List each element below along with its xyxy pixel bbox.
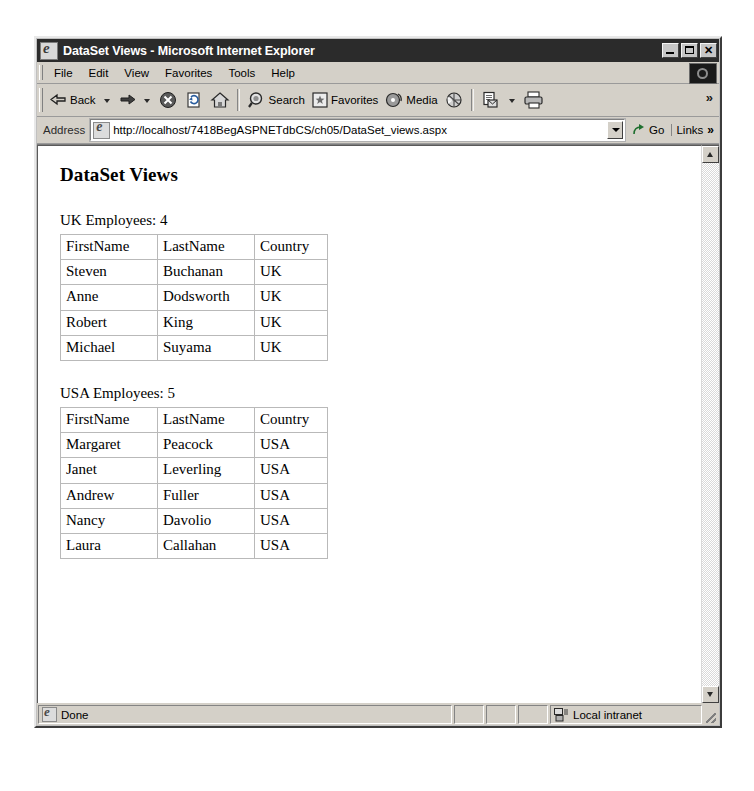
mail-button[interactable] (478, 87, 504, 113)
cell-lastname: Peacock (158, 433, 255, 458)
page-icon (93, 122, 110, 139)
table-row: Andrew Fuller USA (61, 483, 328, 508)
media-label: Media (406, 94, 437, 106)
status-message-panel: Done (38, 705, 452, 724)
history-button[interactable] (441, 87, 467, 113)
minimize-button[interactable] (662, 43, 679, 58)
forward-arrow-icon (118, 92, 136, 108)
column-header-firstname: FirstName (61, 407, 158, 432)
back-label: Back (70, 94, 96, 106)
toolbar-drag-grip[interactable] (39, 88, 43, 112)
forward-button[interactable] (115, 87, 139, 113)
menu-bar: File Edit View Favorites Tools Help (37, 62, 719, 84)
title-bar[interactable]: DataSet Views - Microsoft Internet Explo… (37, 39, 719, 62)
cell-lastname: Fuller (158, 483, 255, 508)
address-input[interactable]: http://localhost/7418BegASPNETdbCS/ch05/… (90, 119, 625, 141)
cell-firstname: Andrew (61, 483, 158, 508)
cell-firstname: Steven (61, 260, 158, 285)
table-row: Anne Dodsworth UK (61, 285, 328, 310)
status-panel-2 (454, 705, 484, 724)
print-button[interactable] (520, 87, 548, 113)
cell-country: USA (255, 433, 328, 458)
content-area: DataSet Views UK Employees: 4 FirstName … (37, 144, 719, 703)
menu-item-help[interactable]: Help (263, 65, 303, 81)
column-header-lastname: LastName (158, 407, 255, 432)
network-zone-icon (554, 708, 569, 722)
cell-lastname: Callahan (158, 533, 255, 558)
maximize-button[interactable] (681, 43, 698, 58)
address-label: Address (43, 124, 85, 136)
table-header-row: FirstName LastName Country (61, 235, 328, 260)
column-header-firstname: FirstName (61, 235, 158, 260)
ie-animated-logo-icon (689, 63, 717, 84)
status-bar: Done Local intranet (37, 703, 719, 725)
search-button[interactable]: Search (244, 87, 308, 113)
refresh-icon (184, 90, 204, 110)
back-button[interactable]: Back (47, 87, 99, 113)
table-header-row: FirstName LastName Country (61, 407, 328, 432)
table-row: Nancy Davolio USA (61, 508, 328, 533)
stop-icon (158, 90, 178, 110)
cell-firstname: Nancy (61, 508, 158, 533)
cell-firstname: Janet (61, 458, 158, 483)
scroll-up-arrow-icon[interactable] (702, 146, 719, 163)
security-zone-text: Local intranet (573, 709, 642, 721)
ie-logo-icon[interactable] (40, 42, 58, 60)
section-usa-employees: USA Employees: 5 FirstName LastName Coun… (60, 385, 701, 559)
chevron-down-icon[interactable] (607, 121, 623, 139)
menu-item-view[interactable]: View (116, 65, 157, 81)
menu-item-favorites[interactable]: Favorites (157, 65, 220, 81)
table-row: Margaret Peacock USA (61, 433, 328, 458)
uk-employees-table: FirstName LastName Country Steven Buchan… (60, 234, 328, 361)
ie-logo-icon (42, 707, 57, 722)
web-page-document: DataSet Views UK Employees: 4 FirstName … (37, 145, 701, 703)
scrollbar-track[interactable] (702, 163, 719, 686)
menu-item-edit[interactable]: Edit (81, 65, 117, 81)
browser-window: DataSet Views - Microsoft Internet Explo… (34, 36, 722, 728)
cell-country: UK (255, 260, 328, 285)
mail-dropdown-icon[interactable] (509, 99, 515, 103)
close-button[interactable] (700, 43, 717, 58)
history-icon (444, 90, 464, 110)
scroll-down-arrow-icon[interactable] (702, 686, 719, 703)
table-row: Michael Suyama UK (61, 335, 328, 360)
status-text: Done (61, 709, 89, 721)
toolbar-separator-2 (471, 89, 474, 111)
favorites-star-icon (311, 91, 329, 109)
toolbar-overflow-chevron-icon[interactable]: » (706, 90, 713, 105)
security-zone-panel[interactable]: Local intranet (550, 705, 702, 724)
vertical-scrollbar[interactable] (701, 145, 719, 703)
home-button[interactable] (207, 87, 233, 113)
menu-drag-grip[interactable] (39, 65, 43, 80)
links-overflow-chevron-icon[interactable]: » (707, 123, 719, 137)
search-label: Search (269, 94, 305, 106)
cell-country: USA (255, 533, 328, 558)
favorites-button[interactable]: Favorites (308, 87, 381, 113)
table-row: Robert King UK (61, 310, 328, 335)
cell-firstname: Margaret (61, 433, 158, 458)
cell-country: UK (255, 310, 328, 335)
status-panel-4 (518, 705, 548, 724)
refresh-button[interactable] (181, 87, 207, 113)
cell-lastname: Buchanan (158, 260, 255, 285)
page-title: DataSet Views (60, 164, 701, 186)
cell-country: USA (255, 483, 328, 508)
forward-history-dropdown-icon[interactable] (144, 99, 150, 103)
column-header-country: Country (255, 235, 328, 260)
media-button[interactable]: Media (381, 87, 440, 113)
go-button[interactable]: Go (627, 123, 669, 137)
back-history-dropdown-icon[interactable] (104, 99, 110, 103)
section-uk-employees: UK Employees: 4 FirstName LastName Count… (60, 212, 701, 361)
go-arrow-icon (632, 123, 647, 137)
window-title: DataSet Views - Microsoft Internet Explo… (63, 44, 662, 58)
links-button[interactable]: Links (671, 124, 707, 136)
menu-item-tools[interactable]: Tools (220, 65, 263, 81)
stop-button[interactable] (155, 87, 181, 113)
window-controls (662, 43, 717, 58)
print-icon (523, 90, 545, 110)
cell-lastname: King (158, 310, 255, 335)
menu-item-file[interactable]: File (46, 65, 81, 81)
cell-firstname: Anne (61, 285, 158, 310)
back-arrow-icon (50, 92, 68, 108)
resize-grip[interactable] (704, 705, 718, 724)
